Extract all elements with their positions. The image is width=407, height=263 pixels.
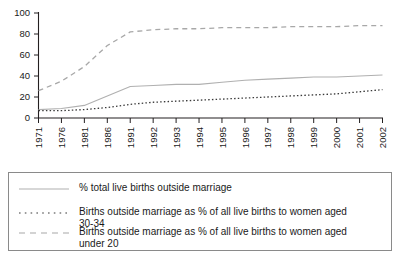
series-line: [39, 75, 383, 110]
x-tick-label: 1999: [308, 127, 319, 148]
y-tick-label: 100: [14, 7, 30, 18]
legend-item-aged-under-20: Births outside marriage as % of all live…: [18, 226, 347, 249]
chart-canvas: 100806040200 197119761981198619911992199…: [0, 0, 407, 160]
series-line: [39, 90, 383, 111]
line-chart: 100806040200 197119761981198619911992199…: [0, 0, 407, 160]
legend-label: Births outside marriage as % of all live…: [79, 226, 347, 249]
x-axis-tick-labels: 1971197619811986199119921993199419951996…: [33, 127, 388, 148]
x-tick-label: 2002: [377, 127, 388, 148]
x-tick-label: 1994: [194, 127, 205, 148]
x-tick-label: 2000: [331, 127, 342, 148]
figure-root: 100806040200 197119761981198619911992199…: [0, 0, 407, 263]
legend-swatch-dashed-icon: [18, 226, 70, 239]
y-tick-label: 60: [19, 49, 30, 60]
chart-legend: % total live births outside marriage Bir…: [8, 172, 392, 251]
legend-item-total-live-births: % total live births outside marriage: [18, 182, 232, 195]
x-tick-label: 1971: [33, 127, 44, 148]
data-series-group: [39, 26, 383, 111]
x-tick-label: 1992: [148, 127, 159, 148]
x-tick-label: 1997: [262, 127, 273, 148]
legend-swatch-dotted-icon: [18, 206, 70, 219]
series-line: [39, 26, 383, 91]
legend-swatch-solid-icon: [18, 182, 70, 195]
x-tick-label: 1998: [285, 127, 296, 148]
x-tick-label: 1993: [171, 127, 182, 148]
x-tick-label: 1996: [240, 127, 251, 148]
x-tick-label: 1991: [125, 127, 136, 148]
y-axis-tick-labels: 100806040200: [14, 7, 30, 123]
y-tick-label: 20: [19, 91, 30, 102]
x-tick-label: 1995: [217, 127, 228, 148]
x-tick-label: 1986: [102, 127, 113, 148]
y-tick-label: 80: [19, 28, 30, 39]
y-axis-ticks: [34, 13, 39, 118]
y-tick-label: 40: [19, 70, 30, 81]
legend-label: % total live births outside marriage: [79, 182, 232, 194]
x-axis-ticks: [39, 118, 383, 123]
x-tick-label: 2001: [354, 127, 365, 148]
y-tick-label: 0: [25, 112, 30, 123]
x-tick-label: 1976: [56, 127, 67, 148]
x-tick-label: 1981: [79, 127, 90, 148]
